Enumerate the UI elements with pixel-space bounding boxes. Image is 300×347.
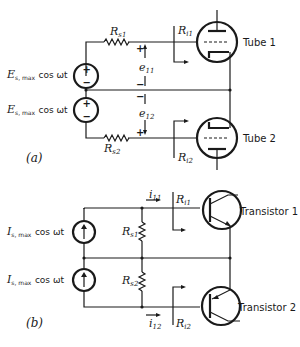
svg-text:+: + xyxy=(136,43,144,54)
source-2-label: Es, max cos ωt xyxy=(7,104,68,116)
transistor-2-npn xyxy=(202,258,240,325)
tube-2-triode xyxy=(197,90,237,170)
ri2-label: Ri2 xyxy=(178,152,193,165)
transistor-1-pnp xyxy=(203,191,241,258)
resistor-rs2 xyxy=(139,272,145,291)
rs2-label-b: Rs2 xyxy=(122,275,138,288)
svg-text:−: − xyxy=(83,111,91,122)
svg-text:+: + xyxy=(83,64,91,75)
panel-b-caption: (b) xyxy=(26,317,43,329)
transistor-1-label: Transistor 1 xyxy=(240,207,298,217)
svg-text:−: − xyxy=(136,79,144,90)
panel-a-push-pull-tubes: + − + − + − − + xyxy=(74,10,237,170)
svg-text:+: + xyxy=(83,98,91,109)
tube-1-label: Tube 1 xyxy=(243,38,276,48)
svg-text:−: − xyxy=(83,77,91,88)
panel-a-caption: (a) xyxy=(26,152,43,164)
current-source-2 xyxy=(73,269,95,291)
i12-label: i12 xyxy=(149,318,161,331)
i11-label: i11 xyxy=(149,189,161,202)
ri1-label-b: Ri1 xyxy=(176,194,191,207)
transistor-2-label: Transistor 2 xyxy=(238,303,296,313)
tube-2-label: Tube 2 xyxy=(243,134,276,144)
circuit-figure: + − + − + − − + xyxy=(0,0,300,347)
current-source-2-label: Is, max cos ωt xyxy=(7,274,64,286)
voltage-source-2: + − xyxy=(74,98,98,122)
e11-label: e11 xyxy=(139,62,154,75)
svg-text:−: − xyxy=(136,91,144,102)
current-source-1 xyxy=(73,221,95,243)
e12-label: e12 xyxy=(139,108,154,121)
rs1-label-b: Rs1 xyxy=(122,226,138,239)
tube-1-triode xyxy=(197,10,237,90)
ri1-label: Ri1 xyxy=(178,25,193,38)
source-1-label: Es, max cos ωt xyxy=(7,69,68,81)
resistor-rs1 xyxy=(104,39,129,45)
ri2-label-b: Ri2 xyxy=(176,318,191,331)
resistor-rs1 xyxy=(139,222,145,241)
rs1-label: Rs1 xyxy=(110,26,126,39)
resistor-rs2 xyxy=(104,135,129,141)
rs2-label: Rs2 xyxy=(104,143,120,156)
panel-b-push-pull-transistors xyxy=(73,191,241,325)
current-source-1-label: Is, max cos ωt xyxy=(7,226,64,238)
svg-text:+: + xyxy=(136,127,144,138)
